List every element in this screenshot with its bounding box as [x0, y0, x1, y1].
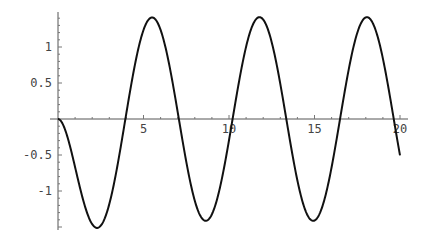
y-tick-label: -0.5 [23, 148, 52, 162]
y-tick-label: -1 [38, 184, 52, 198]
x-tick-label: 10 [222, 122, 236, 136]
y-tick-label: 0.5 [30, 76, 52, 90]
x-tick-label: 15 [307, 122, 321, 136]
y-tick-label: 1 [45, 40, 52, 54]
y-axis-ticks: 10.5-0.5-1 [23, 40, 52, 198]
x-tick-label: 5 [140, 122, 147, 136]
line-chart: 5101520 10.5-0.5-1 [0, 0, 430, 235]
